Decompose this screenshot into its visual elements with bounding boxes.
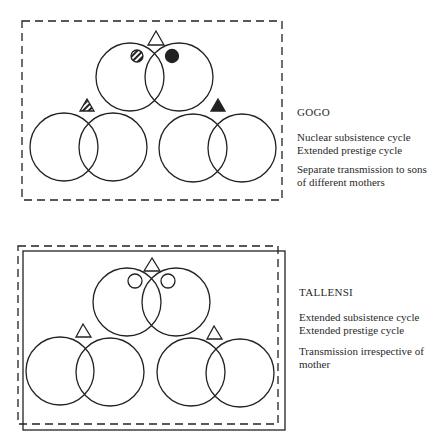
filled-circle-icon [166, 50, 179, 63]
tallensi-dashed-border [18, 246, 278, 424]
gogo-line-3: Separate transmission to sons [297, 163, 427, 176]
hatched-triangle-icon [80, 99, 94, 111]
gogo-diagram [22, 21, 282, 200]
tallensi-title: TALLENSI [299, 286, 424, 299]
gogo-dashed-border [22, 21, 282, 200]
tallensi-legend: TALLENSI Extended subsistence cycle Exte… [299, 286, 424, 371]
tallensi-top-pair [93, 268, 210, 336]
tallensi-solid-border [23, 251, 285, 430]
open-circle-icon [161, 274, 175, 288]
kinship-diagram [0, 0, 446, 446]
open-triangle-icon [76, 324, 91, 337]
gogo-title: GOGO [297, 106, 427, 119]
gogo-line-4: of different mothers [297, 176, 427, 189]
gogo-line-1: Nuclear subsistence cycle [297, 131, 427, 144]
tallensi-line-3: Transmission irrespective of [299, 345, 424, 358]
tallensi-line-2: Extended prestige cycle [299, 324, 424, 337]
tallensi-diagram [18, 246, 285, 430]
open-triangle-icon [207, 326, 222, 339]
gogo-right-pair [159, 114, 276, 182]
open-triangle-icon [148, 31, 164, 45]
filled-triangle-icon [211, 99, 225, 111]
tallensi-line-4: mother [299, 358, 424, 371]
gogo-legend: GOGO Nuclear subsistence cycle Extended … [297, 106, 427, 189]
gogo-top-pair [96, 43, 213, 111]
hatched-circle-icon [131, 50, 143, 62]
gogo-line-2: Extended prestige cycle [297, 144, 427, 157]
open-triangle-icon [144, 258, 160, 271]
open-circle-icon [128, 274, 142, 288]
tallensi-left-pair [26, 337, 144, 406]
tallensi-right-pair [157, 338, 274, 407]
gogo-left-pair [30, 113, 147, 181]
tallensi-line-1: Extended subsistence cycle [299, 311, 424, 324]
